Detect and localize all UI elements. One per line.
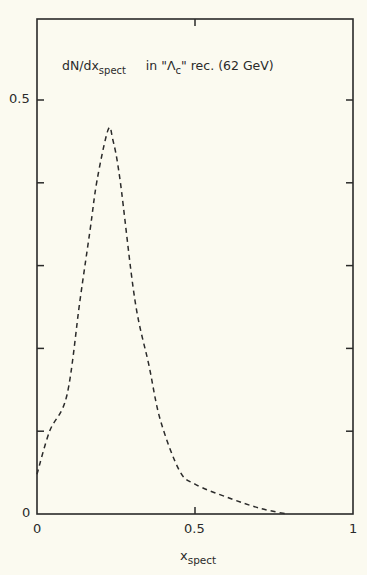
title-rest-post: " rec. (62 GeV) [181,58,274,73]
axes-frame [37,19,353,514]
x-axis-label-subscript: spect [188,554,217,566]
y-tick-label: 0 [22,505,30,520]
x-tick-label: 0 [33,521,41,536]
x-axis-label: xspect [180,548,216,566]
title-rest-pre: in "Λ [146,58,176,73]
title-main: dN/dx [62,58,99,73]
title-main-subscript: spect [99,65,126,76]
chart-title: dN/dxspect in "Λc" rec. (62 GeV) [62,58,274,76]
x-tick-label: 1 [349,521,357,536]
axis-ticks [37,19,353,514]
x-axis-label-main: x [180,548,188,563]
y-tick-label: 0.5 [9,91,30,106]
chart-plot-area [0,0,367,575]
x-tick-label: 0.5 [184,521,205,536]
data-curve-dashed [37,127,287,514]
